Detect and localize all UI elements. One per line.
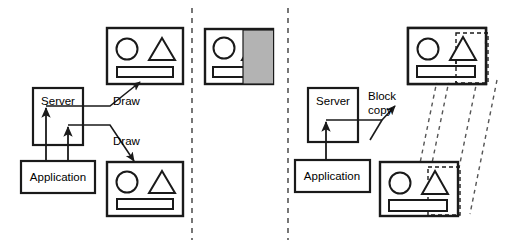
diagram-figure: Server Application Draw Draw: [0, 0, 508, 248]
draw-label-bottom: Draw: [113, 135, 141, 147]
circle-icon: [117, 172, 138, 193]
right-panel: Server Application Block copy: [295, 28, 497, 216]
rectangle-bar-icon: [117, 67, 173, 77]
rectangle-bar-icon: [389, 200, 447, 211]
rectangle-bar-icon: [417, 66, 475, 77]
application-box-right[interactable]: Application: [295, 160, 370, 192]
server-box-left[interactable]: Server: [33, 88, 83, 145]
application-label: Application: [30, 171, 86, 183]
application-label: Application: [304, 170, 360, 182]
circle-icon: [418, 39, 439, 60]
copy-trace-line-4: [470, 80, 497, 214]
rectangle-bar-icon: [117, 199, 173, 209]
application-box-left[interactable]: Application: [21, 161, 95, 193]
circle-icon: [117, 39, 138, 60]
block-copy-connector-tail: [370, 120, 382, 140]
block-copy-label-line1: Block: [368, 90, 396, 102]
left-panel: Server Application Draw Draw: [21, 28, 183, 216]
server-label: Server: [316, 95, 350, 107]
server-box-right[interactable]: Server: [308, 88, 358, 142]
window-top-right[interactable]: [408, 28, 488, 84]
window-top-left[interactable]: [107, 28, 183, 84]
middle-panel: [205, 29, 274, 84]
draw-label-top: Draw: [113, 95, 141, 107]
block-copy-label-line2: copy: [368, 104, 393, 116]
diagram-canvas: Server Application Draw Draw: [0, 0, 508, 248]
circle-icon: [214, 38, 235, 59]
window-bottom-left[interactable]: [107, 162, 183, 216]
window-bottom-right[interactable]: [380, 162, 460, 216]
gray-occluding-region: [243, 30, 274, 84]
circle-icon: [390, 173, 411, 194]
window-occluded[interactable]: [205, 29, 274, 84]
